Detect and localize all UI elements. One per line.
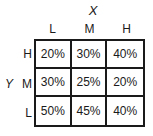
cell-h-m: 30% bbox=[72, 41, 108, 69]
row-header-m: M bbox=[18, 76, 32, 92]
column-header-h: H bbox=[108, 21, 145, 37]
row-header-l: L bbox=[18, 105, 32, 121]
row-header-h: H bbox=[18, 46, 32, 62]
cell-m-m: 25% bbox=[72, 69, 108, 97]
column-header-l: L bbox=[34, 21, 71, 37]
cell-l-m: 45% bbox=[72, 97, 108, 125]
x-axis-title: X bbox=[85, 3, 101, 19]
cell-m-l: 30% bbox=[36, 69, 72, 97]
cell-h-h: 40% bbox=[107, 41, 143, 69]
y-axis-title: Y bbox=[3, 76, 15, 92]
column-header-m: M bbox=[71, 21, 108, 37]
probability-grid: 20% 30% 40% 30% 25% 20% 50% 45% 40% bbox=[34, 39, 145, 127]
cell-l-l: 50% bbox=[36, 97, 72, 125]
cell-h-l: 20% bbox=[36, 41, 72, 69]
cell-m-h: 20% bbox=[107, 69, 143, 97]
cell-l-h: 40% bbox=[107, 97, 143, 125]
